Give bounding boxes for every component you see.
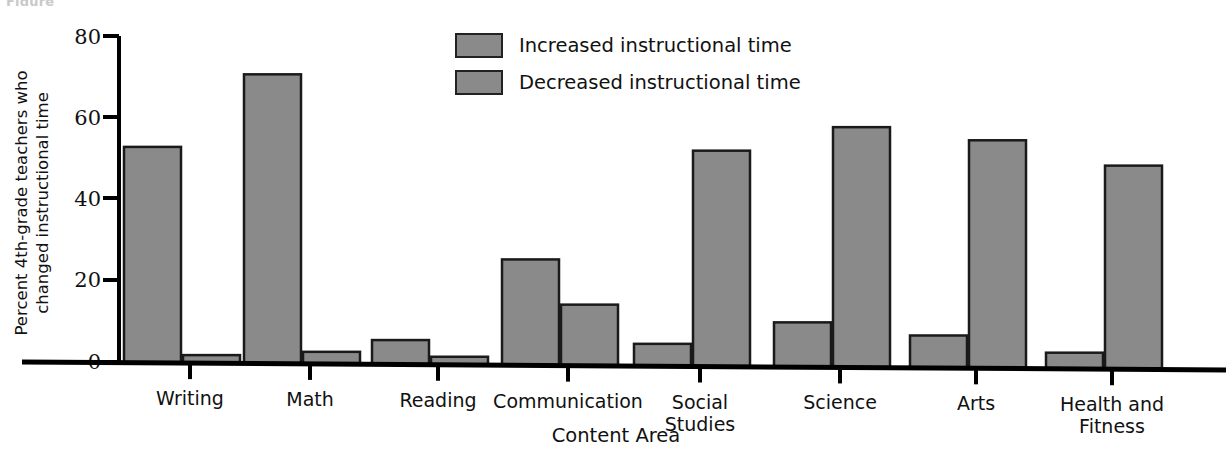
bar[interactable] (693, 151, 750, 367)
bar[interactable] (1105, 166, 1162, 370)
legend-swatch-increased (455, 33, 503, 58)
bar[interactable] (561, 305, 618, 366)
legend-item-increased[interactable]: Increased instructional time (455, 27, 801, 64)
x-tick-label: Communication (493, 390, 643, 412)
bar[interactable] (244, 74, 301, 363)
legend-label-decreased: Decreased instructional time (519, 71, 801, 94)
legend-item-decreased[interactable]: Decreased instructional time (455, 64, 801, 101)
bar[interactable] (833, 127, 890, 367)
bar[interactable] (124, 147, 181, 363)
bar[interactable] (774, 322, 831, 367)
x-tick-label: Arts (957, 392, 995, 414)
figure-container: Figure Percent 4th-grade teachers who ch… (0, 0, 1232, 470)
bar[interactable] (634, 344, 691, 366)
bar[interactable] (372, 340, 429, 364)
legend-swatch-decreased (455, 70, 503, 95)
bar[interactable] (910, 335, 967, 368)
x-tick-label: Writing (156, 387, 224, 409)
bars-layer (124, 74, 1162, 369)
legend-label-increased: Increased instructional time (519, 34, 792, 57)
x-tick-label: Reading (399, 389, 476, 411)
x-tick-label: Math (286, 388, 334, 410)
x-tick-label: Health and Fitness (1060, 393, 1164, 437)
legend: Increased instructional time Decreased i… (455, 27, 801, 101)
x-axis-title: Content Area (552, 424, 681, 447)
x-tick-label: Science (803, 391, 877, 413)
bar[interactable] (502, 259, 559, 365)
bar[interactable] (969, 140, 1026, 368)
